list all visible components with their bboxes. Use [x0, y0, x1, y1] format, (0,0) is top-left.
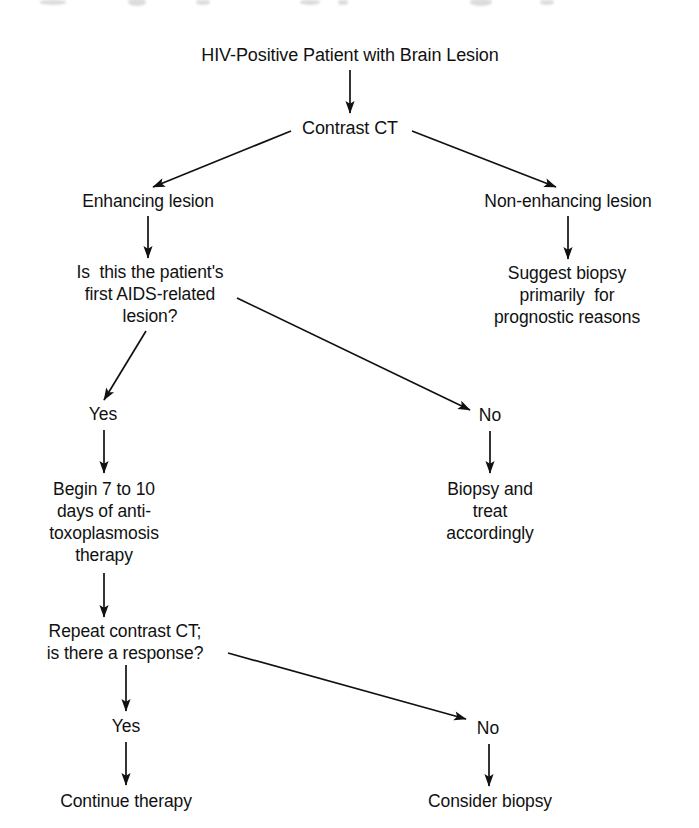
node-non-enhancing-lesion: Non-enhancing lesion	[484, 190, 651, 212]
node-consider-biopsy: Consider biopsy	[428, 790, 552, 812]
node-root: HIV-Positive Patient with Brain Lesion	[201, 44, 498, 67]
label-first-lesion-no: No	[479, 405, 501, 426]
edge-repeat-to-no	[228, 653, 466, 719]
edge-question-to-yes	[104, 331, 146, 400]
label-response-yes: Yes	[112, 716, 141, 737]
flowchart-canvas: HIV-Positive Patient with Brain Lesion C…	[0, 0, 699, 828]
edge-ct-to-enhancing	[153, 131, 291, 187]
label-first-lesion-yes: Yes	[89, 404, 118, 425]
clipped-caption-remnant	[0, 0, 699, 14]
node-biopsy-and-treat: Biopsy and treat accordingly	[446, 478, 533, 544]
node-enhancing-lesion: Enhancing lesion	[82, 190, 214, 212]
label-response-no: No	[477, 718, 499, 739]
node-suggest-biopsy: Suggest biopsy primarily for prognostic …	[494, 262, 640, 328]
node-first-lesion-question: Is this the patient's first AIDS-related…	[76, 261, 223, 327]
node-contrast-ct: Contrast CT	[302, 117, 398, 140]
node-repeat-ct-question: Repeat contrast CT; is there a response?	[47, 620, 204, 664]
edge-question-to-no	[237, 298, 470, 410]
node-begin-therapy: Begin 7 to 10 days of anti- toxoplasmosi…	[49, 478, 159, 566]
node-continue-therapy: Continue therapy	[60, 790, 192, 812]
edge-ct-to-non-enhancing	[412, 131, 556, 187]
